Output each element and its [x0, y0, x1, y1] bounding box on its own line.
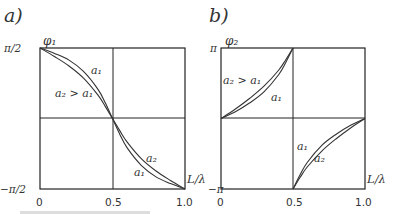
panel-b-annotation-a2-gt-a1: a₂ > a₁ — [223, 74, 261, 87]
panel-b-curve-a1-segment-1 — [293, 119, 365, 190]
panel-b-y-axis-label: φ₂ — [225, 34, 238, 48]
panel-b-label: b) — [209, 4, 229, 26]
panel-a-y-axis-label: φ₁ — [43, 34, 56, 48]
panel-b-annotation-a2-lower: a₂ — [314, 152, 325, 165]
panel-b-x-tick-2: 1.0 — [355, 196, 372, 208]
figure: a) φ₁ π/2 −π/2 0 0.5 1.0 L/λ a₁ a₂ > a₁ … — [0, 0, 393, 214]
panel-a-x-tick-1: 0.5 — [105, 196, 122, 208]
panel-a-x-tick-2: 1.0 — [176, 196, 193, 208]
panel-a-y-tick-top: π/2 — [3, 42, 21, 54]
panel-a: a) φ₁ π/2 −π/2 0 0.5 1.0 L/λ a₁ a₂ > a₁ … — [0, 4, 206, 208]
panel-a-x-tick-0: 0 — [36, 196, 43, 208]
panel-b-x-tick-1: 0.5 — [286, 196, 303, 208]
panel-b-annotation-a1-lower: a₁ — [297, 140, 308, 153]
panel-a-annotation-a2-gt-a1: a₂ > a₁ — [55, 87, 93, 100]
panel-a-annotation-a1-upper: a₁ — [91, 64, 102, 77]
panel-b-y-tick-top: π — [209, 42, 218, 54]
caption-cutoff — [20, 211, 150, 214]
panel-a-x-axis-label: L/λ — [186, 172, 206, 186]
panel-b-x-axis-label: L/λ — [366, 172, 386, 186]
panel-a-y-tick-bottom: −π/2 — [0, 183, 26, 195]
panel-b-x-tick-0: 0 — [217, 196, 224, 208]
panel-a-label: a) — [4, 4, 23, 26]
panel-a-annotation-a2-lower: a₂ — [146, 152, 157, 165]
panel-b: b) φ₂ π −π 0 0.5 1.0 L/λ a₂ > a₁ a₁ a₁ a… — [208, 4, 386, 208]
panel-a-annotation-a1-lower: a₁ — [134, 166, 145, 179]
panel-b-curve-a2-segment-1 — [293, 119, 365, 190]
panel-b-annotation-a1-upper: a₁ — [271, 91, 282, 104]
